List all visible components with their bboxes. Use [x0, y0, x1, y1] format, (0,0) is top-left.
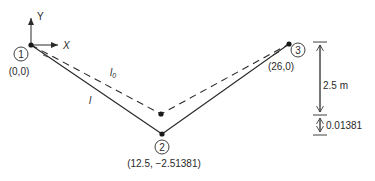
node-1-badge: 1	[14, 47, 28, 61]
cable-diagram: Y X l0 l 1 (0,0) 2 (12.5, −2.51381) 3 (2…	[0, 0, 375, 181]
node-3-badge: 3	[291, 43, 305, 57]
support-hatch-right	[273, 52, 279, 55]
deformed-length-label: l	[89, 95, 92, 106]
node-2-point	[159, 131, 164, 136]
dim-label-additional: 0.01381	[326, 120, 363, 131]
node-3-id: 3	[295, 45, 301, 56]
undeformed-length-label: l0	[110, 67, 116, 79]
node-2-original-point	[158, 111, 163, 116]
node-2-badge: 2	[155, 140, 169, 154]
undeformed-cable	[31, 44, 289, 114]
node-1-point	[28, 42, 33, 47]
dim-label-sag: 2.5 m	[323, 80, 348, 91]
deformed-cable	[31, 44, 289, 134]
node-3-coords: (26,0)	[268, 61, 294, 72]
node-3-point	[286, 41, 291, 46]
node-2-id: 2	[159, 142, 165, 153]
node-1-id: 1	[18, 49, 24, 60]
undeformed-length-subscript: 0	[112, 72, 116, 79]
node-1-coords: (0,0)	[9, 66, 30, 77]
node-2-coords: (12.5, −2.51381)	[127, 158, 201, 169]
x-axis-label: X	[62, 40, 70, 51]
y-axis-label: Y	[37, 11, 44, 22]
